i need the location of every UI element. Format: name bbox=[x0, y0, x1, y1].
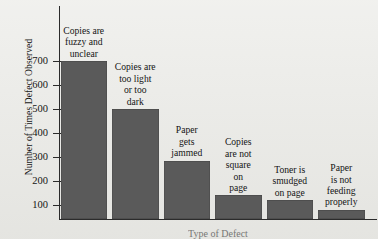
bar-chart: Number of Times Defect Observed 10020030… bbox=[0, 0, 378, 239]
bar-label-line: is not bbox=[315, 174, 368, 185]
bar-label-line: Paper bbox=[315, 162, 368, 173]
bar-label-line: dark bbox=[109, 96, 162, 107]
bar-label-line: fuzzy and bbox=[58, 36, 111, 47]
bar-label-line: too light bbox=[109, 73, 162, 84]
bar-1[interactable] bbox=[61, 61, 108, 219]
bar-label-line: Paper bbox=[161, 124, 214, 135]
bar-4[interactable] bbox=[215, 195, 262, 219]
x-axis-line bbox=[59, 219, 377, 220]
y-tick-label-600: 600 bbox=[4, 80, 48, 91]
bar-label-6: Paperis notfeedingproperly bbox=[315, 162, 368, 208]
bar-3[interactable] bbox=[164, 161, 211, 219]
bar-label-line: Copies are bbox=[58, 25, 111, 36]
bar-label-line: Toner is bbox=[264, 164, 317, 175]
bar-6[interactable] bbox=[318, 210, 365, 219]
y-tick-label-100: 100 bbox=[4, 200, 48, 211]
bar-5[interactable] bbox=[267, 200, 314, 219]
bar-label-line: feeding bbox=[315, 185, 368, 196]
bar-label-line: or too bbox=[109, 84, 162, 95]
bar-label-3: Papergetsjammed bbox=[161, 124, 214, 158]
bar-label-line: on page bbox=[264, 187, 317, 198]
bar-label-line: are not bbox=[212, 148, 265, 159]
bar-label-5: Toner issmudgedon page bbox=[264, 164, 317, 198]
bar-label-line: gets bbox=[161, 136, 214, 147]
bar-label-line: properly bbox=[315, 196, 368, 207]
bar-label-2: Copies aretoo lightor toodark bbox=[109, 61, 162, 107]
y-tick-label-200: 200 bbox=[4, 176, 48, 187]
bar-label-line: jammed bbox=[161, 147, 214, 158]
y-tick-label-500: 500 bbox=[4, 104, 48, 115]
y-tick-label-300: 300 bbox=[4, 152, 48, 163]
bar-label-line: unclear bbox=[58, 48, 111, 59]
bar-label-line: page bbox=[212, 182, 265, 193]
bar-2[interactable] bbox=[112, 109, 159, 219]
x-axis-title: Type of Defect bbox=[59, 228, 377, 239]
y-tick-label-400: 400 bbox=[4, 128, 48, 139]
bar-label-line: on bbox=[212, 171, 265, 182]
bar-label-line: square bbox=[212, 159, 265, 170]
bar-label-line: Copies bbox=[212, 136, 265, 147]
y-tick-label-700: 700 bbox=[4, 56, 48, 67]
bar-label-line: smudged bbox=[264, 175, 317, 186]
bar-label-line: Copies are bbox=[109, 61, 162, 72]
bar-label-1: Copies arefuzzy andunclear bbox=[58, 25, 111, 59]
bar-label-4: Copiesare notsquareonpage bbox=[212, 136, 265, 193]
